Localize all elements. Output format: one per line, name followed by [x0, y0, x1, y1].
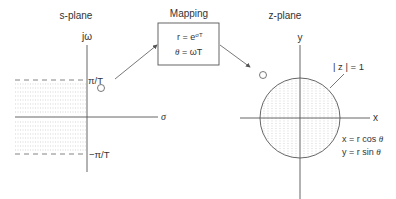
z-plane-point-marker [260, 72, 267, 79]
z-plane-title: z-plane [269, 10, 302, 21]
minus-pi-over-t-label: −π/T [89, 149, 110, 160]
unit-circle-label: | z | = 1 [333, 61, 364, 72]
x-equation: x = r cos θ [342, 134, 384, 144]
x-axis-label: x [373, 112, 378, 123]
mapping-equation-theta: θ = ωT [175, 47, 203, 57]
s-to-z-mapping-diagram: s-plane jω σ π/T −π/T [0, 0, 396, 199]
arrow-to-mapping [115, 45, 157, 79]
s-plane-title: s-plane [60, 10, 93, 21]
z-plane: z-plane y x | z | = 1 [240, 10, 384, 199]
mapping-box: Mapping r = eσT θ = ωT [158, 8, 219, 65]
arrow-to-z-plane [220, 45, 250, 67]
unit-circle-label-pointer [330, 74, 344, 88]
jw-axis-label: jω [81, 31, 92, 42]
mapping-title: Mapping [170, 8, 208, 19]
sigma-axis-label: σ [161, 111, 167, 122]
mapping-frame [158, 23, 219, 65]
s-plane: s-plane jω σ π/T −π/T [15, 10, 167, 172]
y-equation: y = r sin θ [342, 147, 381, 157]
y-axis-label: y [298, 32, 303, 43]
